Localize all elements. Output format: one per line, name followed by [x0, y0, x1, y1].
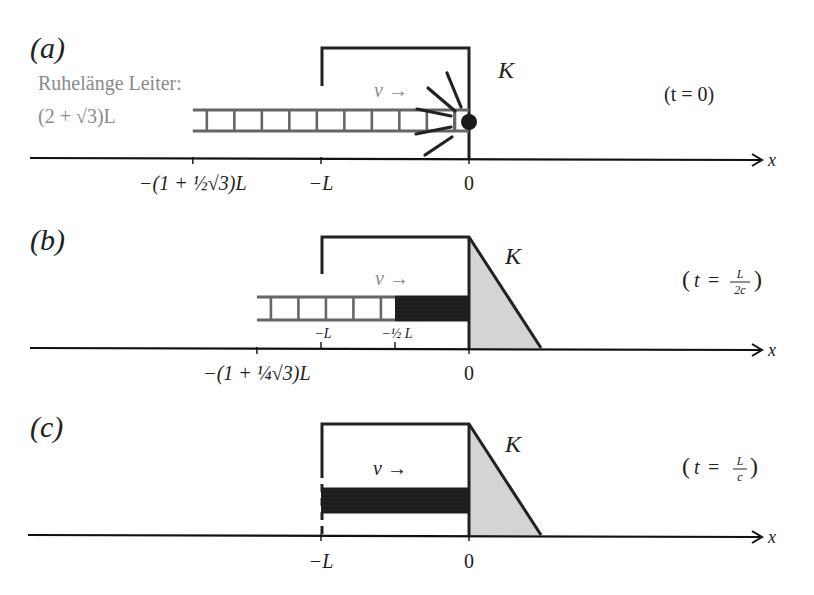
axis-label-x-a: x [767, 150, 776, 170]
ladder-c [321, 488, 469, 514]
svg-text:): ) [750, 453, 758, 479]
time-label-b: ( t = L 2c ) [682, 266, 762, 297]
panel-label-b: (b) [30, 223, 65, 257]
svg-text:): ) [754, 266, 762, 292]
time-num-b: L [736, 267, 744, 281]
velocity-label-a: v → [374, 79, 408, 101]
axis-tick-label: −L [309, 550, 334, 572]
panel-a: (a) Ruhelänge Leiter: (2 + √3)L K v → x … [30, 31, 776, 195]
velocity-label-c: v → [373, 457, 407, 479]
panel-label-c: (c) [30, 410, 63, 444]
svg-text:=: = [708, 456, 719, 478]
rest-length-caption: Ruhelänge Leiter: [38, 72, 182, 95]
x-axis-b [30, 348, 760, 350]
axis-tick-label: −L [309, 172, 334, 194]
ladder-paradox-figure: (a) Ruhelänge Leiter: (2 + √3)L K v → x … [0, 0, 814, 595]
panel-label-a: (a) [30, 31, 65, 65]
panel-c: (c) K v → x −L0 ( t = L c ) [28, 410, 776, 572]
time-label-c: ( t = L c ) [682, 453, 758, 484]
velocity-label-b: v → [375, 267, 409, 289]
time-label-a: (t = 0) [664, 83, 714, 106]
frame-label-K-a: K [497, 57, 516, 83]
compressed-ladder-segment [395, 296, 469, 322]
svg-text:t: t [694, 269, 700, 291]
ladder-b [257, 296, 469, 322]
svg-text:(: ( [682, 266, 690, 292]
panel-b: (b) K v → x −(1 + ¼√3)L0−L−½ L ( t = L 2… [30, 223, 776, 385]
compressed-ladder-segment [321, 488, 469, 514]
x-axis-c [28, 535, 760, 537]
axis-ticks-a: −(1 + ½√3)L−L0 [139, 157, 474, 195]
inner-tick-label: −½ L [381, 326, 412, 341]
inner-tick-label: −L [314, 326, 331, 341]
frame-label-K-c: K [504, 431, 523, 457]
axis-tick-label: −(1 + ½√3)L [139, 172, 246, 195]
axis-tick-label: −(1 + ¼√3)L [203, 362, 310, 385]
time-den-b: 2c [734, 283, 746, 297]
axis-ticks-c: −L0 [309, 534, 474, 572]
axis-ticks-b: −(1 + ¼√3)L0−L−½ L [203, 326, 474, 385]
time-den-c: c [737, 470, 743, 484]
svg-text:(: ( [682, 453, 690, 479]
time-num-c: L [736, 454, 744, 468]
axis-label-x-b: x [767, 340, 776, 360]
rest-length-value: (2 + √3)L [38, 105, 116, 128]
axis-tick-label: 0 [464, 172, 474, 194]
axis-tick-label: 0 [464, 362, 474, 384]
axis-label-x-c: x [767, 527, 776, 547]
axis-tick-label: 0 [464, 550, 474, 572]
svg-text:t: t [694, 456, 700, 478]
ladder-a [193, 110, 469, 131]
x-axis-a [30, 158, 760, 160]
collision-point [461, 114, 477, 130]
svg-text:=: = [708, 269, 719, 291]
frame-label-K-b: K [504, 243, 523, 269]
